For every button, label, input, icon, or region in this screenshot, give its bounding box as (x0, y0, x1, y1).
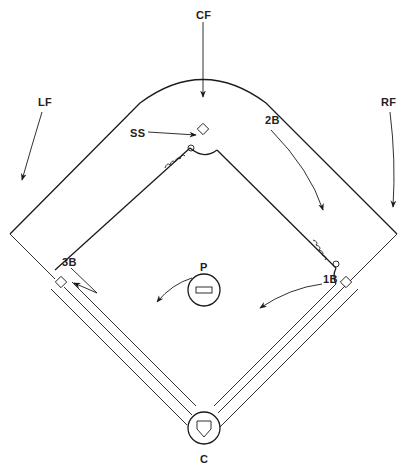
1b-position-marker (333, 261, 339, 267)
pitchers-rubber (196, 287, 212, 293)
third-baseline-outer (51, 289, 187, 425)
label-3b: 3B (62, 256, 77, 268)
first-baseline-inner (214, 284, 336, 406)
home-plate (197, 421, 211, 437)
first-base (340, 276, 351, 287)
label-c: C (200, 453, 208, 465)
label-1b: 1B (323, 273, 338, 285)
ss-arrow (148, 132, 196, 135)
label-2b: 2B (265, 114, 280, 126)
third-baseline-mid (72, 282, 196, 406)
rf-arrow (390, 112, 394, 207)
first-baseline-outer (220, 289, 358, 427)
first-baseline-mid (218, 286, 345, 413)
baseball-field-diagram: CF LF RF SS 2B 3B 1B P C (0, 0, 406, 471)
home-plate-circle (188, 412, 220, 444)
lf-arrow (22, 112, 42, 180)
pitcher-arrow (157, 278, 192, 302)
2b-arrow (271, 130, 323, 210)
third-base (55, 276, 66, 287)
label-cf: CF (196, 9, 211, 21)
label-ss: SS (130, 127, 145, 139)
grass-scallops-ss (165, 155, 185, 168)
label-rf: RF (381, 96, 396, 108)
second-base (197, 123, 208, 134)
1b-arrow (260, 284, 322, 308)
pitchers-mound (188, 274, 220, 306)
infield-left-edge (55, 148, 190, 270)
label-lf: LF (38, 96, 52, 108)
outfield-fence (10, 80, 397, 235)
label-p: P (200, 261, 208, 273)
left-foul-line (10, 234, 55, 279)
third-baseline-inner (64, 287, 192, 415)
3b-arrow (71, 268, 97, 293)
right-foul-line (350, 234, 397, 281)
infield-right-edge (217, 150, 336, 268)
